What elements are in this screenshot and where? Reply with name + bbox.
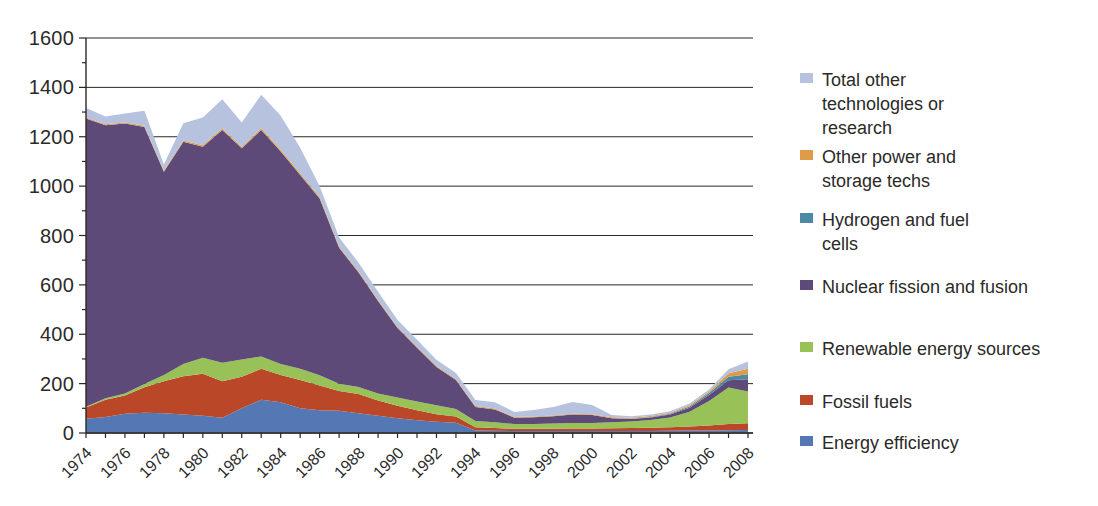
legend-label-total-other-technologies: Total othertechnologies orresearch [822, 68, 944, 140]
legend-label-hydrogen-fuel-cells: Hydrogen and fuelcells [822, 208, 969, 256]
legend-item-hydrogen-fuel-cells: Hydrogen and fuelcells [800, 208, 1094, 256]
y-tick-label: 600 [0, 274, 74, 296]
legend-item-total-other-technologies: Total othertechnologies orresearch [800, 68, 1094, 140]
y-tick-label: 200 [0, 373, 74, 395]
energy-rd-stacked-area-chart: 02004006008001000120014001600 1974197619… [0, 0, 1098, 506]
legend-label-nuclear-fission-fusion: Nuclear fission and fusion [822, 275, 1028, 299]
legend-swatch-energy-efficiency [800, 436, 813, 446]
legend-swatch-other-power-storage [800, 150, 813, 160]
legend-item-fossil-fuels: Fossil fuels [800, 390, 1094, 414]
legend-label-other-power-storage: Other power andstorage techs [822, 145, 956, 193]
y-tick-label: 1000 [0, 175, 74, 197]
legend-item-renewable-energy-sources: Renewable energy sources [800, 337, 1094, 361]
legend-swatch-hydrogen-fuel-cells [800, 213, 813, 223]
legend-label-energy-efficiency: Energy efficiency [822, 431, 959, 455]
y-tick-label: 800 [0, 225, 74, 247]
legend-label-renewable-energy-sources: Renewable energy sources [822, 337, 1040, 361]
y-tick-label: 1600 [0, 27, 74, 49]
y-tick-label: 1400 [0, 76, 74, 98]
legend-item-energy-efficiency: Energy efficiency [800, 431, 1094, 455]
y-tick-label: 0 [0, 422, 74, 444]
legend-item-other-power-storage: Other power andstorage techs [800, 145, 1094, 193]
legend-swatch-renewable-energy-sources [800, 342, 813, 352]
legend-label-fossil-fuels: Fossil fuels [822, 390, 912, 414]
legend-swatch-total-other-technologies [800, 73, 813, 83]
legend-swatch-nuclear-fission-fusion [800, 280, 813, 290]
legend-swatch-fossil-fuels [800, 395, 813, 405]
y-tick-label: 1200 [0, 126, 74, 148]
legend-item-nuclear-fission-fusion: Nuclear fission and fusion [800, 275, 1094, 299]
y-tick-label: 400 [0, 323, 74, 345]
